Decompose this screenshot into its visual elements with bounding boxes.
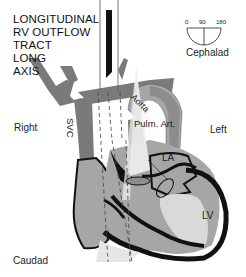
pulmonary-valve-ring xyxy=(126,177,150,185)
echo-diagram: LONGITUDINAL RV OUTFLOW TRACT LONG AXIS … xyxy=(0,0,246,277)
title-line: RV OUTFLOW xyxy=(13,26,99,39)
dial-label-180: 180 xyxy=(216,19,226,25)
title-line: LONGITUDINAL xyxy=(13,13,99,26)
title-line: TRACT xyxy=(13,39,99,52)
la-label: LA xyxy=(162,152,174,163)
svc-vessel xyxy=(74,98,94,162)
angle-dial xyxy=(187,28,221,45)
caudad-label: Caudad xyxy=(13,255,48,266)
dial-label-0: 0 xyxy=(185,19,188,25)
title-line: AXIS xyxy=(13,65,99,78)
svc-label: SVC xyxy=(65,118,76,138)
pulm-art-label: Pulm. Art. xyxy=(134,118,175,129)
view-title: LONGITUDINAL RV OUTFLOW TRACT LONG AXIS xyxy=(13,13,99,78)
tee-probe xyxy=(106,10,112,78)
dial-label-90: 90 xyxy=(199,19,206,25)
left-label: Left xyxy=(210,124,227,135)
cephalad-label: Cephalad xyxy=(186,47,229,58)
lv-label: LV xyxy=(202,210,214,221)
title-line: LONG xyxy=(13,52,99,65)
right-label: Right xyxy=(14,122,37,133)
